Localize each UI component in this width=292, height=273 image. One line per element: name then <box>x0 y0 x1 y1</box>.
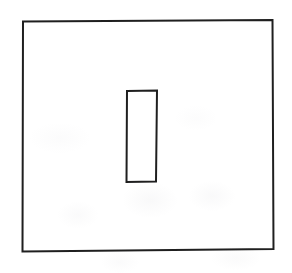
drawing-canvas <box>0 0 292 273</box>
page-background <box>0 0 292 273</box>
line-drawing <box>0 0 292 273</box>
